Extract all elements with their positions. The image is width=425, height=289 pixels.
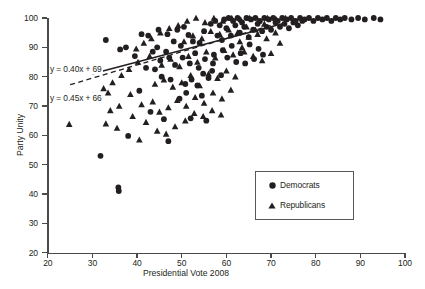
data-point bbox=[100, 85, 107, 91]
data-point bbox=[168, 77, 174, 83]
data-point bbox=[259, 57, 266, 63]
data-point bbox=[175, 22, 182, 28]
x-tick-label: 40 bbox=[122, 258, 152, 268]
data-point bbox=[202, 56, 208, 62]
data-point bbox=[163, 131, 170, 137]
x-tick-label: 80 bbox=[301, 258, 331, 268]
legend-label-democrats: Democrats bbox=[280, 180, 320, 190]
data-point bbox=[170, 84, 177, 90]
data-point bbox=[152, 81, 159, 87]
data-point bbox=[224, 55, 230, 61]
data-point bbox=[378, 17, 384, 23]
data-point bbox=[148, 109, 154, 115]
x-tick-label: 90 bbox=[345, 258, 375, 268]
data-point bbox=[181, 24, 187, 30]
data-point bbox=[107, 107, 114, 113]
data-point bbox=[200, 113, 207, 119]
data-point bbox=[223, 67, 230, 73]
y-tick bbox=[42, 193, 47, 194]
legend-item-democrats: Democrats bbox=[256, 177, 353, 193]
data-point bbox=[187, 72, 194, 78]
data-point bbox=[192, 94, 199, 100]
data-point bbox=[286, 25, 292, 31]
legend-label-republicans: Republicans bbox=[280, 200, 325, 210]
data-point bbox=[166, 25, 173, 31]
data-point bbox=[210, 61, 216, 67]
data-point bbox=[143, 65, 149, 71]
triangle-marker-icon bbox=[264, 202, 280, 209]
data-point bbox=[232, 73, 239, 79]
data-point bbox=[190, 39, 196, 45]
data-point bbox=[184, 18, 191, 24]
data-point bbox=[118, 72, 125, 78]
data-point bbox=[183, 90, 189, 96]
data-point bbox=[263, 35, 270, 41]
data-point bbox=[342, 15, 348, 21]
plot-area bbox=[0, 0, 425, 289]
y-tick bbox=[42, 223, 47, 224]
data-point bbox=[230, 51, 237, 57]
data-point bbox=[209, 107, 216, 113]
circle-marker-icon bbox=[264, 182, 280, 189]
data-point bbox=[181, 38, 188, 44]
data-point bbox=[127, 91, 134, 97]
democrat-trendline-equation: y = 0.40x + 69 bbox=[49, 64, 103, 74]
data-point bbox=[199, 35, 206, 41]
data-point bbox=[236, 38, 243, 44]
data-point bbox=[125, 133, 131, 139]
data-point bbox=[123, 44, 129, 50]
data-point bbox=[202, 19, 209, 25]
data-point bbox=[229, 43, 235, 49]
data-point bbox=[182, 117, 189, 123]
legend: Democrats Republicans bbox=[255, 171, 354, 220]
data-point bbox=[207, 28, 214, 34]
data-point bbox=[114, 125, 121, 131]
y-tick-label: 20 bbox=[14, 248, 38, 258]
data-point bbox=[103, 120, 110, 126]
data-point bbox=[355, 15, 361, 21]
data-point bbox=[185, 53, 192, 59]
data-point bbox=[211, 15, 218, 21]
x-tick-label: 50 bbox=[167, 258, 197, 268]
data-point bbox=[165, 138, 171, 144]
data-point bbox=[152, 66, 158, 72]
data-point bbox=[362, 17, 368, 23]
y-tick bbox=[42, 76, 47, 77]
data-point bbox=[183, 103, 190, 109]
data-point bbox=[132, 53, 138, 59]
data-point bbox=[277, 40, 284, 46]
data-point bbox=[109, 79, 116, 85]
data-point bbox=[117, 46, 123, 52]
data-point bbox=[154, 44, 160, 50]
data-point bbox=[136, 136, 143, 142]
data-point bbox=[165, 31, 171, 37]
x-tick-label: 100 bbox=[390, 258, 420, 268]
data-point bbox=[171, 39, 177, 45]
y-tick bbox=[42, 47, 47, 48]
y-tick bbox=[42, 105, 47, 106]
data-point bbox=[200, 71, 206, 77]
data-point bbox=[98, 153, 104, 159]
scatter-plot-figure: 2030405060708090100 2030405060708090100 … bbox=[0, 0, 425, 289]
data-point bbox=[139, 31, 145, 37]
data-point bbox=[233, 59, 239, 65]
data-point bbox=[188, 115, 194, 121]
y-tick-label: 40 bbox=[14, 189, 38, 199]
data-point bbox=[116, 103, 123, 109]
data-point bbox=[232, 22, 238, 28]
x-axis-title: Presidential Vote 2008 bbox=[126, 268, 246, 278]
data-point bbox=[299, 18, 305, 24]
data-point bbox=[138, 101, 145, 107]
data-point bbox=[349, 17, 355, 23]
data-point bbox=[192, 50, 198, 56]
y-tick bbox=[42, 17, 47, 18]
republican-trendline-equation: y = 0.45x + 66 bbox=[49, 93, 103, 103]
data-point bbox=[143, 119, 150, 125]
data-points-layer bbox=[0, 0, 425, 289]
data-point bbox=[161, 116, 167, 122]
data-point bbox=[260, 52, 266, 58]
y-tick-label: 30 bbox=[14, 218, 38, 228]
data-point bbox=[180, 55, 186, 61]
data-point bbox=[116, 188, 122, 194]
data-point bbox=[150, 49, 156, 55]
